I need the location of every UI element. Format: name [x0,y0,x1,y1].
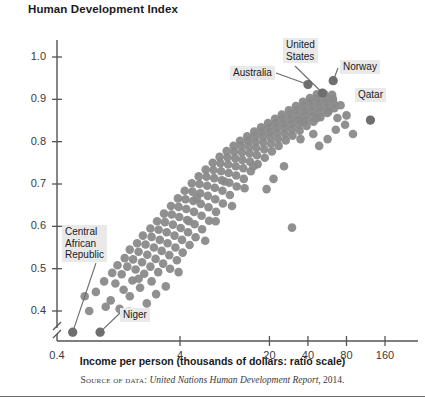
data-point [159,259,168,268]
data-point [190,208,199,217]
data-point [108,269,117,278]
data-point [296,135,305,144]
data-point [185,241,194,250]
data-point [336,101,345,110]
data-point [141,240,150,249]
data-point [201,165,210,174]
data-point [120,254,129,263]
data-point [174,194,183,203]
data-point [143,250,152,259]
data-point [170,231,179,240]
data-point [342,111,351,120]
data-point [156,236,165,245]
data-point [201,236,210,245]
annotation-label-united-states: UnitedStates [283,38,318,63]
data-point [280,162,289,171]
data-point [153,217,162,226]
x-axis-tick-label: 0.4 [37,349,77,361]
data-point [174,203,183,212]
y-axis-tick-label: 0.8 [14,135,46,147]
data-point [341,120,350,129]
data-point [133,239,142,248]
data-point [180,187,189,196]
data-point [106,296,115,305]
y-axis-tick-label: 0.4 [14,304,46,316]
data-point [232,182,241,191]
data-point [163,239,172,248]
data-point [134,275,143,284]
data-point [219,199,228,208]
source-year: , 2014. [318,375,344,385]
source-note: Source of data: United Nations Human Dev… [0,375,425,385]
data-point [249,162,258,171]
data-point [117,270,126,279]
data-point [208,159,217,168]
data-point [218,187,227,196]
data-point [261,154,270,163]
data-point [178,236,187,245]
data-point [211,195,220,204]
data-point [146,262,155,271]
x-axis-tick-label: 4 [160,349,200,361]
bottom-divider [0,396,425,397]
data-point [349,130,358,139]
data-point [178,248,187,257]
data-point [146,224,155,233]
data-point [166,264,175,273]
data-point [181,195,190,204]
data-point [167,202,176,211]
data-point [136,283,145,292]
data-point [222,147,231,156]
data-point [134,247,143,256]
data-point [298,117,307,126]
data-point [165,251,174,260]
data-point [203,181,212,190]
data-point [215,153,224,162]
x-axis-tick-label: 160 [365,349,405,361]
data-point [332,126,341,135]
data-point [171,243,180,252]
data-point [232,171,241,180]
data-point [228,202,237,211]
data-point [204,203,213,212]
data-point [324,107,333,116]
data-point [240,175,249,184]
data-point [333,114,342,123]
data-point [262,185,271,194]
figure-container: Human Development Index Income per perso… [0,0,425,410]
annotated-data-point [366,116,375,125]
source-report-name: United Nations Human Development Report [149,375,318,385]
data-point [111,279,120,288]
y-axis-tick-label: 0.9 [14,92,46,104]
data-point [195,180,204,189]
x-axis-tick-label: 80 [326,349,366,361]
data-point [220,177,229,186]
annotation-label-norway: Norway [340,60,380,74]
annotation-label-australia: Australia [230,66,275,80]
data-point [210,174,219,183]
data-point [309,130,318,139]
data-point [313,114,322,123]
data-point [288,223,297,232]
annotation-leader-line [73,263,96,332]
data-point [173,256,182,265]
annotation-label-central-african-republic: CentralAfricanRepublic [62,225,107,262]
data-point [161,218,170,227]
annotation-label-niger: Niger [120,308,150,322]
data-point [131,265,140,274]
annotation-leader-line [100,313,120,332]
data-point [123,262,132,271]
data-point [182,205,191,214]
data-point [236,137,245,146]
data-point [119,286,128,295]
source-prefix: Source of data: [81,375,147,385]
y-axis-tick-label: 1.0 [14,50,46,62]
data-point [129,255,138,264]
data-point [211,184,220,193]
data-point [226,191,235,200]
data-point [185,217,194,226]
data-point [191,233,200,242]
data-point [126,292,135,301]
data-point [147,277,156,286]
annotated-data-point [68,328,77,337]
